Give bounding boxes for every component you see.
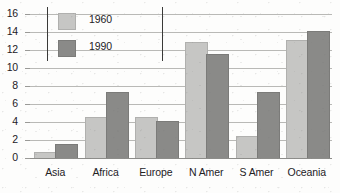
y-tick-label-0: 0 bbox=[0, 151, 18, 163]
y-tick-stub-8 bbox=[25, 86, 30, 87]
legend-swatch-1990 bbox=[58, 40, 76, 57]
legend-rule-right bbox=[162, 7, 163, 61]
y-tick-label-8: 8 bbox=[0, 79, 18, 91]
y-tick-stub-12 bbox=[25, 50, 30, 51]
legend-rule-left bbox=[47, 7, 48, 61]
x-axis-label-oceania: Oceania bbox=[272, 166, 340, 178]
y-tick-label-2: 2 bbox=[0, 133, 18, 145]
legend-label-1990: 1990 bbox=[89, 40, 112, 52]
bar-s-amer-1990 bbox=[257, 92, 280, 158]
y-tick-label-12: 12 bbox=[0, 43, 18, 55]
bar-europe-1960 bbox=[135, 117, 158, 159]
bar-asia-1960 bbox=[34, 152, 57, 158]
y-tick-stub-14 bbox=[25, 32, 30, 33]
bar-europe-1990 bbox=[156, 121, 179, 158]
y-tick-stub-10 bbox=[25, 68, 30, 69]
bar-group-oceania bbox=[286, 14, 328, 158]
bar-s-amer-1960 bbox=[236, 136, 259, 158]
bar-oceania-1960 bbox=[286, 40, 309, 158]
bar-n-amer-1960 bbox=[185, 42, 208, 158]
y-tick-label-4: 4 bbox=[0, 115, 18, 127]
legend-label-1960: 1960 bbox=[89, 13, 112, 25]
bar-africa-1990 bbox=[106, 92, 129, 158]
bar-africa-1960 bbox=[85, 117, 108, 159]
gridline-0 bbox=[30, 158, 332, 159]
y-tick-label-14: 14 bbox=[0, 25, 18, 37]
y-tick-stub-0 bbox=[25, 158, 30, 159]
y-tick-stub-6 bbox=[25, 104, 30, 105]
bar-group-n-amer bbox=[185, 14, 227, 158]
bar-chart: 0246810121416 AsiaAfricaEuropeN AmerS Am… bbox=[0, 0, 340, 193]
legend-swatch-1960 bbox=[58, 13, 76, 30]
y-tick-stub-16 bbox=[25, 14, 30, 15]
y-tick-label-6: 6 bbox=[0, 97, 18, 109]
bar-group-s-amer bbox=[236, 14, 278, 158]
legend: 1960 1990 bbox=[47, 7, 163, 61]
y-tick-label-16: 16 bbox=[0, 7, 18, 19]
bar-oceania-1990 bbox=[307, 31, 330, 158]
y-tick-label-10: 10 bbox=[0, 61, 18, 73]
bar-asia-1990 bbox=[55, 144, 78, 159]
bar-n-amer-1990 bbox=[206, 54, 229, 159]
y-tick-stub-4 bbox=[25, 122, 30, 123]
y-tick-stub-2 bbox=[25, 140, 30, 141]
